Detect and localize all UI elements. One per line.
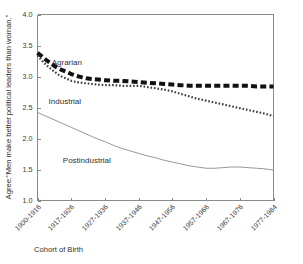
series-label-industrial: Industrial — [49, 97, 82, 106]
y-tick-label: 2.0 — [23, 134, 33, 143]
chart-svg: 1.01.52.02.53.03.54.0 1900-19161917-1926… — [0, 0, 303, 264]
series-label-agrarian: Agrarian — [52, 58, 82, 67]
x-axis-title: Cohort of Birth — [34, 245, 83, 254]
y-tick-label: 3.5 — [23, 41, 33, 50]
y-tick-label: 1.0 — [23, 196, 33, 205]
y-tick-label: 4.0 — [23, 10, 33, 19]
series-label-postindustrial: Postindustrial — [63, 156, 111, 165]
y-tick-label: 3.0 — [23, 72, 33, 81]
y-tick-label: 2.5 — [23, 103, 33, 112]
y-tick-label: 1.5 — [23, 165, 33, 174]
y-axis-title: Agree:"Men make better political leaders… — [4, 14, 13, 199]
chart-figure: 1.01.52.02.53.03.54.0 1900-19161917-1926… — [0, 0, 303, 264]
